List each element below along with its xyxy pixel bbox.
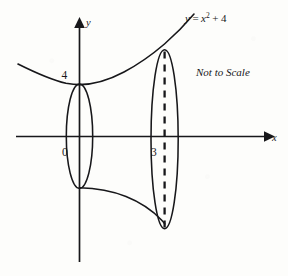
equation-equals: =	[192, 12, 198, 24]
volume-of-revolution-diagram: x y 4 0 3 y=x2+4 Not to Scale	[0, 0, 288, 276]
equation-lhs: y	[184, 12, 190, 24]
reflected-curve-path	[80, 188, 165, 224]
y-axis-arrowhead	[74, 17, 85, 28]
not-to-scale-note: Not to Scale	[195, 66, 250, 78]
x-axis-label: x	[271, 132, 277, 143]
ellipse-at-x3	[151, 50, 178, 229]
tick-label-x-mark: 3	[151, 146, 157, 158]
figure-canvas: x y 4 0 3 y=x2+4 Not to Scale	[0, 0, 288, 276]
equation-constant: 4	[221, 12, 227, 24]
equation-plus: +	[212, 12, 218, 24]
tick-label-y-intercept: 4	[62, 69, 68, 81]
x-axis	[16, 131, 275, 142]
reflected-curve	[80, 188, 165, 224]
parabola-curve	[18, 14, 194, 85]
y-axis	[74, 17, 85, 262]
equation-exponent: 2	[206, 11, 210, 20]
parabola-path	[18, 14, 194, 85]
y-axis-label: y	[85, 17, 91, 28]
disk-cross-section-at-3	[151, 50, 178, 229]
tick-label-origin: 0	[62, 146, 68, 158]
